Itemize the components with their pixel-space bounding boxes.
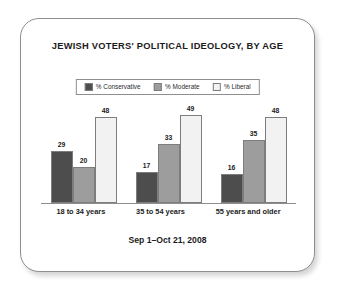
category-label: 55 years and older (216, 207, 281, 216)
legend-item-label: % Liberal (224, 84, 251, 90)
bar-group: 16 35 48 (221, 105, 287, 203)
bar-chart-plot-area: 29 20 48 17 33 (41, 104, 296, 204)
bar-wrapper: 20 (73, 105, 95, 203)
bar-wrapper: 33 (158, 105, 180, 203)
bar-wrapper: 17 (136, 105, 158, 203)
bar-wrapper: 48 (265, 105, 287, 203)
bar-value-label: 16 (221, 165, 243, 172)
bar-value-label: 48 (265, 108, 287, 115)
chart-footer-note: Sep 1–Oct 21, 2008 (21, 235, 314, 245)
legend-item-conservative[interactable]: % Conservative (84, 83, 140, 91)
legend-swatch-icon (84, 83, 92, 91)
legend-item-moderate[interactable]: % Moderate (154, 83, 200, 91)
legend-item-label: % Conservative (96, 84, 141, 90)
bar-conservative[interactable] (136, 172, 158, 202)
bar-liberal[interactable] (180, 115, 202, 202)
bar-conservative[interactable] (221, 174, 243, 203)
bar-liberal[interactable] (95, 117, 117, 203)
chart-card: JEWISH VOTERS' POLITICAL IDEOLOGY, BY AG… (20, 18, 315, 272)
x-axis-line (41, 203, 296, 204)
category-label: 18 to 34 years (56, 207, 105, 216)
bar-value-label: 33 (158, 135, 180, 142)
bar-group: 17 33 49 (136, 105, 202, 203)
bar-wrapper: 35 (243, 105, 265, 203)
bar-value-label: 49 (180, 106, 202, 113)
bar-value-label: 48 (95, 108, 117, 115)
bar-wrapper: 16 (221, 105, 243, 203)
page-title: JEWISH VOTERS' POLITICAL IDEOLOGY, BY AG… (21, 41, 314, 51)
bar-value-label: 29 (51, 142, 73, 149)
bar-wrapper: 49 (180, 105, 202, 203)
bar-wrapper: 29 (51, 105, 73, 203)
bar-group: 29 20 48 (51, 105, 117, 203)
bar-groups: 29 20 48 17 33 (41, 105, 296, 203)
bar-moderate[interactable] (73, 167, 95, 203)
category-label: 35 to 54 years (136, 207, 185, 216)
chart-legend: % Conservative % Moderate % Liberal (75, 79, 259, 95)
bar-moderate[interactable] (158, 144, 180, 203)
legend-swatch-icon (154, 83, 162, 91)
x-axis-category-labels: 18 to 34 years 35 to 54 years 55 years a… (41, 207, 296, 216)
bar-conservative[interactable] (51, 151, 73, 203)
bar-value-label: 35 (243, 131, 265, 138)
legend-item-liberal[interactable]: % Liberal (213, 83, 251, 91)
bar-moderate[interactable] (243, 140, 265, 202)
bar-wrapper: 48 (95, 105, 117, 203)
legend-item-label: % Moderate (165, 84, 199, 90)
bar-value-label: 20 (73, 158, 95, 165)
bar-value-label: 17 (136, 163, 158, 170)
legend-swatch-icon (213, 83, 221, 91)
bar-liberal[interactable] (265, 117, 287, 203)
